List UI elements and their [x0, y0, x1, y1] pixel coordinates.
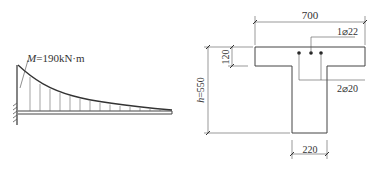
flange-width-label: 700: [302, 9, 319, 21]
top-rebar-label: 1⌀22: [337, 26, 358, 37]
height-label: h=550: [195, 77, 206, 103]
diagram-canvas: M=190kN·m 1⌀22 2⌀20 700 120: [0, 0, 378, 173]
t-section: 1⌀22 2⌀20 700 120 h=550 220: [195, 9, 367, 159]
bottom-rebar-label: 2⌀20: [337, 83, 358, 94]
moment-diagram: M=190kN·m: [13, 52, 172, 125]
moment-label: M=190kN·m: [26, 52, 85, 64]
flange-thickness-label: 120: [220, 50, 231, 65]
web-width-label: 220: [303, 144, 318, 155]
